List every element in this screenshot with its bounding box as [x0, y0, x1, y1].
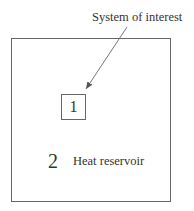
arrow-icon	[0, 0, 194, 211]
reservoir-number: 2	[48, 150, 58, 173]
reservoir-label: Heat reservoir	[73, 154, 144, 169]
